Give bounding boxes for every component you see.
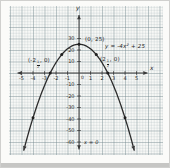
x-tick-label: 1 <box>89 76 92 81</box>
intercept-left-post: , 0) <box>40 57 50 63</box>
x-tick-label: 4 <box>123 76 126 81</box>
y-tick-label: -10 <box>66 82 74 87</box>
data-point <box>60 53 63 56</box>
scan-bottom-edge <box>1 163 169 167</box>
equation-pre: y = -4x <box>105 43 127 49</box>
x-tick-label: -2 <box>54 76 59 81</box>
x-axis-label: x <box>150 65 154 72</box>
y-tick-label: -30 <box>66 105 74 110</box>
x-intercept-right-label: (212, 0) <box>100 56 120 68</box>
y-tick-label: -20 <box>66 94 74 99</box>
data-point <box>106 72 109 75</box>
y-tick-label: -50 <box>66 128 74 133</box>
fraction-denominator: 2 <box>107 65 109 69</box>
data-point <box>32 116 35 119</box>
equation-label: y = -4x2 + 25 <box>105 43 145 49</box>
intercept-left-pre: (-2 <box>28 57 36 63</box>
y-axis-bottom-arrow <box>77 145 81 149</box>
x-axis-right-arrow <box>143 71 147 75</box>
intercept-right-post: , 0) <box>110 56 120 62</box>
y-tick-label: -60 <box>66 140 74 145</box>
y-tick-label: -40 <box>66 117 74 122</box>
axis-of-symmetry-label: x = 0 <box>84 140 99 146</box>
x-tick-label: -3 <box>42 76 47 81</box>
x-tick-label: 5 <box>135 76 138 81</box>
x-tick-label: -1 <box>65 76 70 81</box>
data-point <box>78 43 81 46</box>
x-tick-label: -5 <box>19 76 24 81</box>
data-point <box>95 53 98 56</box>
data-point <box>124 116 127 119</box>
y-tick-label: 20 <box>68 48 74 53</box>
y-tick-label: 30 <box>68 36 74 41</box>
data-point <box>49 72 52 75</box>
graph-figure: -5-4-3-2-112345302010-10-20-30-40-50-60 … <box>0 0 170 168</box>
intercept-right-pre: (2 <box>100 56 106 62</box>
equation-post: + 25 <box>129 43 145 49</box>
x-intercept-left-label: (-212, 0) <box>28 57 50 69</box>
origin-tick-label: 0 <box>81 75 84 80</box>
x-tick-label: 3 <box>112 76 115 81</box>
vertex-label: (0, 25) <box>85 36 105 42</box>
y-tick-label: 10 <box>68 59 74 64</box>
y-axis-top-arrow <box>77 15 81 19</box>
fraction-denominator: 2 <box>37 66 39 70</box>
x-tick-label: 2 <box>100 76 103 81</box>
x-tick-label: -4 <box>31 76 36 81</box>
y-axis-label: y <box>76 5 80 12</box>
